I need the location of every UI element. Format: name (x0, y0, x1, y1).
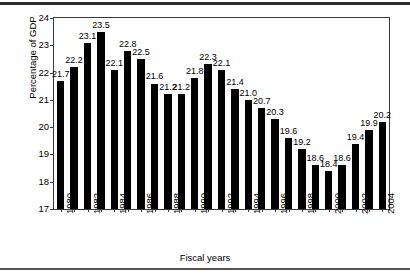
y-axis-tick-label: 18 (30, 177, 49, 186)
x-axis-tick-mark (369, 209, 370, 212)
y-axis-tick-label: 17 (30, 204, 49, 213)
bar-value-label: 20.2 (369, 111, 395, 120)
x-axis-tick-mark (248, 209, 249, 212)
bar (151, 84, 159, 210)
x-axis-tick-mark (302, 209, 303, 212)
x-axis-tick-mark (222, 209, 223, 212)
x-axis-tick-mark (289, 209, 290, 212)
y-axis-tick-mark (50, 209, 54, 210)
x-axis-tick-mark (141, 209, 142, 212)
x-axis-tick-mark (74, 209, 75, 212)
x-axis-tick-mark (128, 209, 129, 212)
bar (164, 94, 172, 209)
bar-value-label: 20.7 (249, 97, 275, 106)
bar-value-label: 22.1 (209, 59, 235, 68)
x-axis-tick-label: 2004 (386, 193, 396, 214)
y-axis-tick-label: 21 (30, 95, 49, 104)
y-axis-tick-label: 20 (30, 122, 49, 131)
bar-value-label: 21.6 (142, 72, 168, 81)
bar (111, 70, 119, 209)
bar-value-label: 19.6 (276, 127, 302, 136)
bar (365, 130, 373, 209)
x-axis-tick-mark (88, 209, 89, 212)
x-axis-tick-mark (342, 209, 343, 212)
x-axis-tick-mark (329, 209, 330, 212)
bar (218, 70, 226, 209)
y-axis-tick-label: 24 (30, 13, 49, 22)
x-axis-tick-mark (195, 209, 196, 212)
bar-value-label: 21.4 (222, 78, 248, 87)
x-axis-tick-mark (181, 209, 182, 212)
bar-value-label: 22.5 (128, 48, 154, 57)
bar (191, 78, 199, 209)
y-axis-tick-mark (50, 127, 54, 128)
bar (312, 165, 320, 209)
x-axis-tick-mark (382, 209, 383, 212)
x-axis-tick-mark (168, 209, 169, 212)
bar (124, 51, 132, 209)
bar (231, 89, 239, 209)
x-axis-tick-mark (356, 209, 357, 212)
y-axis-tick-mark (50, 100, 54, 101)
x-axis-tick-mark (208, 209, 209, 212)
bar (178, 94, 186, 209)
x-axis-tick-mark (114, 209, 115, 212)
x-axis-tick-mark (235, 209, 236, 212)
y-axis-tick-label: 19 (30, 149, 49, 158)
x-axis-tick-mark (262, 209, 263, 212)
bar-value-label: 23.5 (88, 21, 114, 30)
plot-inner: 171819202122232421.7198022.223.1198223.5… (54, 18, 389, 209)
y-axis-tick-mark (50, 182, 54, 183)
x-axis-tick-mark (315, 209, 316, 212)
y-axis-tick-label: 23 (30, 40, 49, 49)
x-axis-tick-mark (101, 209, 102, 212)
bar-value-label: 20.3 (262, 108, 288, 117)
bar (204, 64, 212, 209)
bar (57, 81, 65, 209)
x-axis-title: Fiscal years (0, 252, 410, 263)
chart-figure: Percentage of GDP 171819202122232421.719… (0, 0, 410, 275)
x-axis-tick-mark (61, 209, 62, 212)
bar-value-label: 19.2 (289, 138, 315, 147)
bar (84, 43, 92, 209)
y-axis-tick-mark (50, 154, 54, 155)
bar (258, 108, 266, 209)
x-axis-tick-mark (275, 209, 276, 212)
bar (285, 138, 293, 209)
bar (70, 67, 78, 209)
y-axis-tick-mark (50, 18, 54, 19)
top-divider-rule (0, 2, 410, 5)
x-axis-tick-mark (155, 209, 156, 212)
y-axis-tick-label: 22 (30, 68, 49, 77)
y-axis-tick-mark (50, 45, 54, 46)
plot-area: 171819202122232421.7198022.223.1198223.5… (53, 17, 390, 210)
bar (338, 165, 346, 209)
bottom-divider-rule (0, 268, 410, 270)
